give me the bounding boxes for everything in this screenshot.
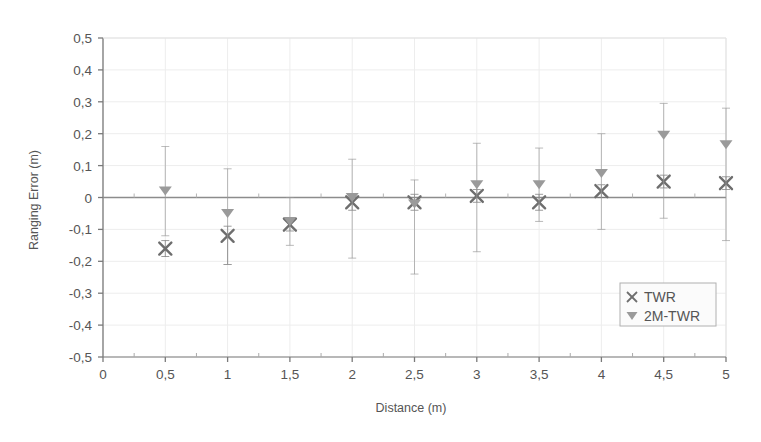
legend-label: 2M-TWR (644, 308, 700, 324)
y-tick-label: -0,5 (69, 350, 92, 365)
legend-label: TWR (644, 289, 676, 305)
x-tick-label: 0 (99, 367, 107, 382)
x-tick-label: 4 (598, 367, 606, 382)
y-tick-label: -0,3 (69, 286, 92, 301)
x-tick-label: 2,5 (405, 367, 424, 382)
y-tick-label: 0,1 (73, 159, 92, 174)
chart-figure: 00,511,522,533,544,55 0,50,40,30,20,10-0… (0, 0, 761, 442)
ranging-error-scatter-chart: 00,511,522,533,544,55 0,50,40,30,20,10-0… (0, 0, 761, 442)
x-tick-label: 5 (722, 367, 730, 382)
y-axis-title: Ranging Error (m) (27, 150, 41, 250)
y-tick-label: 0,3 (73, 95, 92, 110)
x-tick-label: 2 (348, 367, 356, 382)
y-tick-label: 0,2 (73, 127, 92, 142)
x-tick-label: 1,5 (281, 367, 300, 382)
x-axis-title: Distance (m) (376, 401, 447, 415)
x-tick-label: 1 (224, 367, 232, 382)
y-tick-label: -0,1 (69, 222, 92, 237)
x-tick-label: 3 (473, 367, 481, 382)
chart-legend: TWR2M-TWR (620, 283, 716, 326)
y-tick-label: -0,4 (69, 318, 93, 333)
x-tick-label: 0,5 (156, 367, 175, 382)
y-tick-label: 0,5 (73, 31, 92, 46)
x-tick-label: 4,5 (654, 367, 673, 382)
chart-background (0, 0, 761, 442)
y-tick-label: -0,2 (69, 254, 92, 269)
y-tick-label: 0,4 (73, 63, 92, 78)
y-tick-label: 0 (84, 191, 92, 206)
x-tick-label: 3,5 (530, 367, 549, 382)
